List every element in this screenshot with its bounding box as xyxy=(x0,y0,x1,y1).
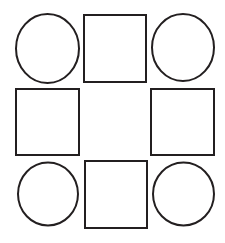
shape-circle-top-left xyxy=(16,14,79,83)
shape-grid-diagram xyxy=(0,0,225,243)
shape-square-middle-right xyxy=(151,89,214,155)
shape-square-top-center xyxy=(84,15,146,82)
shape-row-bottom xyxy=(18,161,214,228)
shape-square-bottom-center xyxy=(85,161,147,228)
shape-circle-top-right xyxy=(152,14,214,81)
shape-circle-bottom-left xyxy=(18,163,78,226)
shape-row-top xyxy=(16,14,214,83)
diagram-svg-canvas xyxy=(0,0,225,243)
shape-circle-bottom-right xyxy=(153,163,214,226)
shape-square-middle-left xyxy=(16,89,79,155)
